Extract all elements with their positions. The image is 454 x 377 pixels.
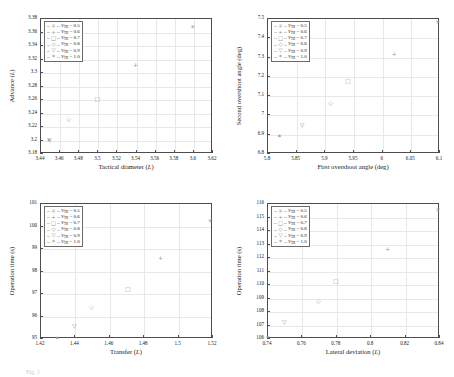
data-point: +: [385, 246, 390, 252]
gridline-vertical: [406, 204, 407, 337]
y-tick-label: 114: [241, 227, 264, 232]
gridline-horizontal: [268, 312, 438, 313]
x-tick-label: 0.8: [367, 341, 373, 346]
legend-item: ✶VTR = 1.0: [274, 239, 307, 245]
x-tick: [405, 335, 406, 338]
gridline-horizontal: [268, 258, 438, 259]
panel-operation-time-vs-lateral-deviation: 0.740.760.780.80.820.8410610710810911011…: [0, 0, 454, 377]
y-tick: [267, 203, 270, 204]
y-tick-label: 107: [241, 322, 264, 327]
y-tick-label: 110: [241, 281, 264, 286]
gridline-horizontal: [268, 272, 438, 273]
y-tick: [267, 257, 270, 258]
y-tick: [267, 244, 270, 245]
y-tick-label: 109: [241, 295, 264, 300]
data-point: ◇: [316, 298, 321, 304]
x-axis-label: Lateral deviation (L): [326, 349, 381, 356]
gridline-horizontal: [268, 299, 438, 300]
y-tick-label: 108: [241, 308, 264, 313]
x-tick-label: 0.76: [297, 341, 306, 346]
y-tick: [267, 217, 270, 218]
y-tick: [267, 298, 270, 299]
y-tick-label: 106: [241, 335, 264, 340]
y-tick: [267, 325, 270, 326]
gridline-horizontal: [268, 326, 438, 327]
hexagram-marker-icon: ✶: [274, 239, 287, 244]
figure-four-panel-scatter: 3.443.463.483.53.523.543.563.583.63.623.…: [0, 0, 454, 377]
y-tick: [267, 271, 270, 272]
x-tick: [301, 335, 302, 338]
gridline-vertical: [337, 204, 338, 337]
y-tick: [267, 284, 270, 285]
x-tick-label: 0.74: [263, 341, 272, 346]
legend-item-label: VTR = 1.0: [287, 239, 307, 245]
y-tick-label: 112: [241, 254, 264, 259]
x-tick-label: 0.84: [435, 341, 444, 346]
y-tick: [267, 311, 270, 312]
figure-caption: Fig. 1: [26, 369, 176, 377]
gridline-horizontal: [268, 285, 438, 286]
x-tick: [370, 335, 371, 338]
y-tick-label: 113: [241, 241, 264, 246]
x-tick-label: 0.82: [400, 341, 409, 346]
data-point: ✶: [265, 334, 270, 340]
gridline-vertical: [371, 204, 372, 337]
x-tick: [439, 335, 440, 338]
y-tick-label: 111: [241, 268, 264, 273]
data-point: ✳: [436, 207, 441, 213]
y-axis-label: Operation time (s): [236, 246, 243, 294]
data-point: ▽: [282, 319, 287, 325]
x-tick: [336, 335, 337, 338]
y-tick-label: 116: [241, 200, 264, 205]
y-tick: [267, 230, 270, 231]
y-tick-label: 115: [241, 214, 264, 219]
data-point: □: [333, 278, 339, 284]
legend: ✳VTR = 0.5+VTR = 0.6□VTR = 0.7◇VTR = 0.8…: [271, 206, 310, 247]
x-tick-label: 0.78: [331, 341, 340, 346]
